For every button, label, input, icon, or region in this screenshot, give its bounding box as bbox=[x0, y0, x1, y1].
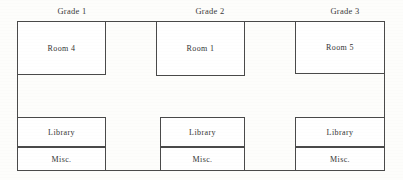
zone-library: Library bbox=[17, 117, 106, 147]
zone-label: Library bbox=[48, 128, 75, 137]
zone-label: Room 5 bbox=[326, 43, 354, 52]
zone-room-1: Room 1 bbox=[156, 21, 245, 76]
zone-label: Misc. bbox=[193, 155, 213, 164]
zone-library: Library bbox=[160, 117, 245, 147]
zone-label: Library bbox=[189, 128, 216, 137]
zone-misc: Misc. bbox=[160, 147, 245, 171]
zone-label: Misc. bbox=[330, 155, 350, 164]
zone-label: Room 1 bbox=[187, 44, 215, 53]
zone-label: Library bbox=[327, 128, 354, 137]
zone-label: Room 4 bbox=[48, 44, 76, 53]
grade-label: Grade 3 bbox=[330, 6, 359, 16]
zone-misc: Misc. bbox=[295, 147, 385, 171]
zone-library: Library bbox=[295, 117, 385, 147]
zone-room-5: Room 5 bbox=[295, 21, 385, 74]
zone-misc: Misc. bbox=[17, 147, 106, 171]
floor-plan-diagram: Grade 1Grade 2Grade 3 Room 4Room 1Room 5… bbox=[0, 0, 403, 180]
zone-room-4: Room 4 bbox=[17, 21, 106, 75]
zone-label: Misc. bbox=[52, 155, 72, 164]
grade-label: Grade 2 bbox=[195, 6, 224, 16]
grade-label: Grade 1 bbox=[57, 6, 86, 16]
